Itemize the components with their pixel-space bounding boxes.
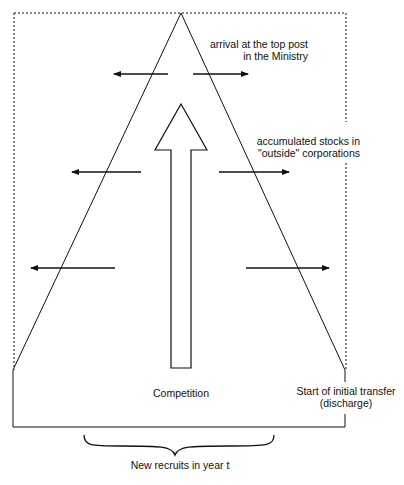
- new-recruits-brace: [84, 435, 274, 455]
- competition-up-arrow-icon: [155, 104, 207, 368]
- pyramid-diagram: [0, 0, 404, 485]
- label-initial-transfer: Start of initial transfer (discharge): [290, 385, 402, 409]
- label-new-recruits: New recruits in year t: [115, 459, 245, 471]
- label-outside-corporations: accumulated stocks in "outside" corporat…: [246, 135, 360, 159]
- label-top-post: arrival at the top post in the Ministry: [200, 38, 308, 62]
- label-competition: Competition: [141, 387, 221, 399]
